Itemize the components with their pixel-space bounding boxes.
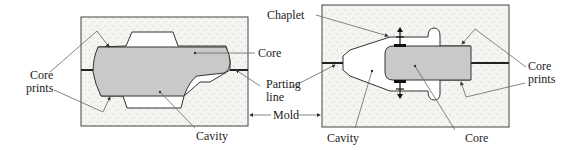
label-cavity-left: Cavity <box>196 129 228 143</box>
sand-casting-diagram: Core prints Core Parting line Mold Cavit… <box>0 0 568 151</box>
left-mold <box>81 17 248 126</box>
label-core-prints-left-1: Core <box>30 68 53 82</box>
label-cavity-right: Cavity <box>327 131 359 145</box>
label-core-right: Core <box>465 131 488 145</box>
label-core-prints-left-2: prints <box>26 81 54 95</box>
label-parting-line-1: Parting <box>266 77 301 91</box>
label-chaplet: Chaplet <box>267 8 305 22</box>
label-parting-line-2: line <box>266 90 284 104</box>
label-core-left: Core <box>258 46 281 60</box>
right-core <box>385 46 471 80</box>
label-core-prints-right-2: prints <box>528 72 556 86</box>
label-core-prints-right-1: Core <box>528 59 551 73</box>
label-mold: Mold <box>273 108 299 122</box>
